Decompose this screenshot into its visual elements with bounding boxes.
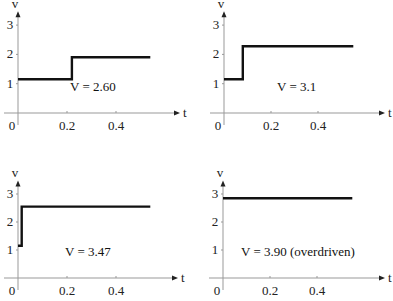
x-tick-label: 0.2	[59, 283, 75, 298]
y-axis-label: v	[12, 0, 19, 11]
x-tick-label: 0.2	[263, 118, 279, 133]
voltage-trace	[18, 207, 150, 246]
y-tick-label: 1	[212, 242, 219, 257]
y-tick-label: 1	[7, 76, 14, 91]
voltage-annotation: V = 3.1	[277, 79, 316, 94]
y-axis-label: v	[12, 165, 19, 180]
x-tick-label: 0	[9, 283, 16, 298]
y-axis-arrow-icon	[16, 11, 21, 17]
y-tick-label: 3	[213, 17, 220, 32]
x-axis-arrow-icon	[379, 276, 385, 281]
chart-panel-3: vt12300.20.4V = 3.47	[4, 165, 185, 298]
y-tick-label: 2	[7, 214, 14, 229]
x-axis-label: t	[183, 105, 187, 120]
x-axis-label: t	[388, 270, 392, 285]
y-tick-label: 1	[213, 76, 220, 91]
voltage-trace	[18, 57, 150, 79]
x-tick-label: 0.2	[59, 118, 75, 133]
x-tick-label: 0.4	[108, 118, 125, 133]
y-axis-label: v	[217, 165, 224, 180]
x-axis-arrow-icon	[379, 111, 385, 116]
x-tick-label: 0	[214, 283, 221, 298]
y-tick-label: 3	[7, 17, 14, 32]
x-tick-label: 0.4	[309, 283, 326, 298]
chart-grid: vt12300.20.4V = 2.60vt12300.20.4V = 3.1v…	[0, 0, 393, 301]
x-tick-label: 0	[215, 118, 222, 133]
x-axis-arrow-icon	[174, 111, 180, 116]
x-axis-label: t	[181, 270, 185, 285]
x-tick-label: 0.4	[310, 118, 327, 133]
y-axis-label: v	[218, 0, 225, 11]
y-tick-label: 3	[212, 186, 219, 201]
chart-panel-4: vt12300.20.4V = 3.90 (overdriven)	[209, 165, 392, 298]
y-tick-label: 3	[7, 186, 14, 201]
voltage-trace	[224, 46, 353, 79]
y-tick-label: 2	[213, 46, 220, 61]
y-tick-label: 2	[212, 214, 219, 229]
y-axis-arrow-icon	[222, 11, 227, 17]
x-tick-label: 0.2	[262, 283, 278, 298]
x-tick-label: 0	[9, 118, 16, 133]
y-axis-arrow-icon	[16, 180, 21, 186]
voltage-annotation: V = 3.90 (overdriven)	[241, 244, 355, 259]
x-axis-arrow-icon	[172, 276, 178, 281]
chart-panel-2: vt12300.20.4V = 3.1	[210, 0, 392, 133]
y-tick-label: 1	[7, 242, 14, 257]
x-axis-label: t	[388, 105, 392, 120]
y-tick-label: 2	[7, 46, 14, 61]
y-axis-arrow-icon	[221, 180, 226, 186]
voltage-annotation: V = 3.47	[65, 244, 111, 259]
x-tick-label: 0.4	[108, 283, 125, 298]
chart-panel-1: vt12300.20.4V = 2.60	[4, 0, 187, 133]
voltage-annotation: V = 2.60	[70, 79, 116, 94]
